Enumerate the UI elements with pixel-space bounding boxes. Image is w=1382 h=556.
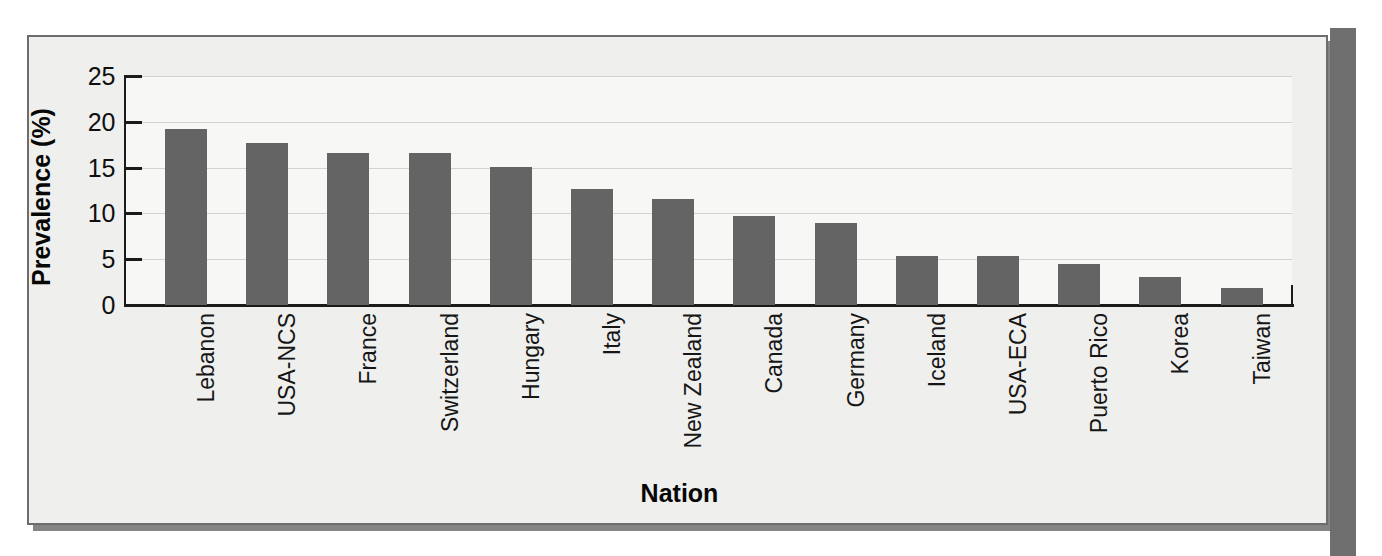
bar-iceland <box>896 256 938 305</box>
x-label-taiwan: Taiwan <box>1251 313 1274 385</box>
bar-puerto-rico <box>1058 264 1100 305</box>
bar-usa-ncs <box>246 143 288 305</box>
y-tick-label-0: 0 <box>69 293 115 318</box>
bar-italy <box>571 189 613 305</box>
x-label-hungary: Hungary <box>520 313 543 400</box>
y-tick-label-5: 5 <box>69 247 115 272</box>
x-label-puerto-rico: Puerto Rico <box>1088 313 1111 433</box>
x-label-iceland: Iceland <box>926 313 949 387</box>
y-tick-label-10: 10 <box>69 201 115 226</box>
x-label-usa-eca: USA-ECA <box>1007 313 1030 415</box>
x-label-new-zealand: New Zealand <box>682 313 705 449</box>
x-axis-category-labels: LebanonUSA-NCSFranceSwitzerlandHungaryIt… <box>125 313 1292 473</box>
bar-canada <box>733 216 775 305</box>
bar-switzerland <box>409 153 451 305</box>
x-label-france: France <box>357 313 380 385</box>
y-tick-label-25: 25 <box>69 64 115 89</box>
bar-usa-eca <box>977 256 1019 305</box>
y-tick-label-20: 20 <box>69 110 115 135</box>
x-axis-title: Nation <box>29 479 1330 508</box>
x-label-switzerland: Switzerland <box>439 313 462 432</box>
figure-frame: 0510152025 LebanonUSA-NCSFranceSwitzerla… <box>27 35 1328 525</box>
x-label-usa-ncs: USA-NCS <box>276 313 299 417</box>
x-label-korea: Korea <box>1169 313 1192 374</box>
page-edge-artifact <box>1330 28 1356 556</box>
bar-new-zealand <box>652 199 694 305</box>
bars-layer <box>125 76 1292 305</box>
bar-france <box>327 153 369 305</box>
bar-taiwan <box>1221 288 1263 305</box>
bar-lebanon <box>165 129 207 305</box>
y-tick-label-15: 15 <box>69 156 115 181</box>
x-label-germany: Germany <box>845 313 868 408</box>
bar-germany <box>815 223 857 305</box>
bar-hungary <box>490 167 532 305</box>
x-label-canada: Canada <box>763 313 786 394</box>
x-label-italy: Italy <box>601 313 624 355</box>
y-axis-title: Prevalence (%) <box>27 97 56 297</box>
x-label-lebanon: Lebanon <box>195 313 218 403</box>
bar-korea <box>1139 277 1181 305</box>
